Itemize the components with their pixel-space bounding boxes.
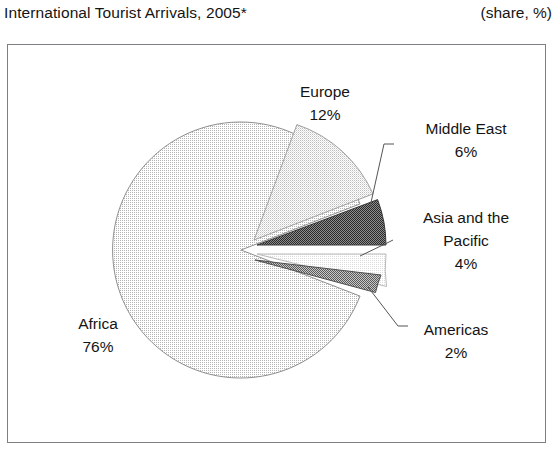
slice-label-americas-name: Americas bbox=[392, 318, 520, 341]
pie-chart-figure: International Tourist Arrivals, 2005* (s… bbox=[0, 0, 560, 451]
slice-label-americas: Americas 2% bbox=[392, 318, 520, 364]
slice-label-asia-pacific: Asia and the Pacific 4% bbox=[398, 206, 534, 275]
slice-label-africa: Africa 76% bbox=[48, 312, 148, 358]
slice-label-middle-east-name: Middle East bbox=[398, 117, 534, 140]
slice-label-europe-value: 12% bbox=[268, 103, 382, 126]
slice-label-middle-east: Middle East 6% bbox=[398, 117, 534, 163]
slice-label-asia-pacific-name-line1: Asia and the bbox=[398, 206, 534, 229]
leader-line-middle-east bbox=[370, 144, 394, 207]
slice-label-europe-name: Europe bbox=[268, 80, 382, 103]
slice-label-asia-pacific-name-line2: Pacific bbox=[398, 229, 534, 252]
slice-label-africa-name: Africa bbox=[48, 312, 148, 335]
slice-label-africa-value: 76% bbox=[48, 335, 148, 358]
slice-label-asia-pacific-value: 4% bbox=[398, 252, 534, 275]
slice-label-americas-value: 2% bbox=[392, 341, 520, 364]
slice-label-europe: Europe 12% bbox=[268, 80, 382, 126]
slice-label-middle-east-value: 6% bbox=[398, 140, 534, 163]
